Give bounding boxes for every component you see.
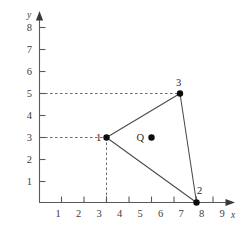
- x-tick-label-8: 8: [199, 208, 204, 219]
- x-tick-label-9: 9: [219, 208, 224, 219]
- coordinate-plot: 8 7 6 5 4 3 2 1 1 2 3 4 5 6: [0, 0, 247, 231]
- x-tick-label-5: 5: [137, 208, 142, 219]
- triangle-vertices: [103, 90, 199, 205]
- x-tick-label-1: 1: [55, 208, 60, 219]
- axes: [36, 11, 235, 206]
- triangle-shape: [107, 94, 197, 203]
- y-tick-label-4: 4: [27, 110, 33, 121]
- x-axis-tick-labels: 1 2 3 4 5 6 7 8 9: [55, 208, 224, 219]
- vertex-dot-1: [103, 134, 109, 140]
- y-axis-tick-labels: 8 7 6 5 4 3 2 1: [27, 22, 33, 187]
- y-tick-label-8: 8: [27, 22, 32, 33]
- x-tick-label-7: 7: [178, 208, 183, 219]
- y-axis-label: y: [26, 10, 32, 20]
- x-tick-label-4: 4: [117, 208, 123, 219]
- y-tick-label-1: 1: [27, 176, 32, 187]
- x-tick-label-3: 3: [96, 208, 101, 219]
- vertex-label-3: 3: [176, 77, 181, 88]
- vertex-dot-2: [193, 199, 199, 205]
- vertex-dot-3: [177, 90, 183, 96]
- vertex-label-2: 2: [197, 185, 202, 196]
- guide-lines: [40, 94, 180, 204]
- y-axis-ticks: [40, 28, 46, 182]
- y-tick-label-7: 7: [27, 44, 32, 55]
- x-axis-label: x: [230, 210, 236, 220]
- x-tick-label-6: 6: [158, 208, 163, 219]
- y-tick-label-6: 6: [27, 66, 32, 77]
- y-tick-label-2: 2: [27, 154, 32, 165]
- y-tick-label-5: 5: [27, 88, 32, 99]
- point-q-group: Q: [136, 132, 154, 143]
- x-axis-arrow-icon: [226, 199, 236, 206]
- y-tick-label-3: 3: [27, 132, 32, 143]
- figure-root: 8 7 6 5 4 3 2 1 1 2 3 4 5 6: [0, 0, 247, 231]
- vertex-label-1: 1: [96, 132, 101, 143]
- point-label-q: Q: [136, 132, 144, 143]
- point-dot-q: [148, 134, 154, 140]
- y-axis-arrow-icon: [36, 11, 43, 21]
- x-tick-label-2: 2: [76, 208, 81, 219]
